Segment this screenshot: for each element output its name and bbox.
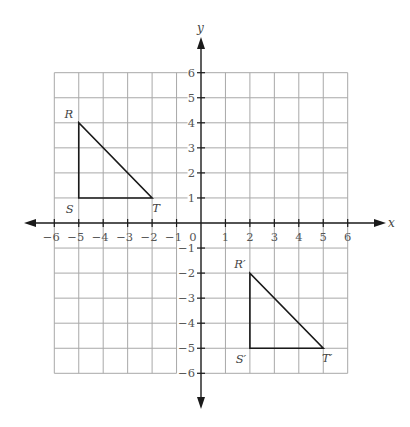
- y-tick-label: 2: [188, 166, 195, 180]
- vertex-label: T: [152, 201, 161, 215]
- x-tick-label: 2: [246, 230, 253, 244]
- y-tick-label: −6: [178, 366, 195, 380]
- y-tick-label: −1: [178, 241, 195, 255]
- x-tick-label: −4: [92, 230, 109, 244]
- x-axis-left-arrow-icon: [24, 219, 36, 227]
- x-axis-label: x: [388, 216, 395, 230]
- y-axis-up-arrow-icon: [197, 37, 205, 49]
- x-tick-label: −2: [141, 230, 158, 244]
- vertex-label: R: [63, 107, 73, 121]
- triangle: [79, 123, 152, 198]
- y-tick-label: 5: [188, 91, 195, 105]
- y-tick-label: −2: [178, 266, 195, 280]
- x-tick-label: 6: [344, 230, 351, 244]
- y-tick-label: −3: [178, 291, 195, 305]
- axes: x y 0: [24, 21, 395, 409]
- x-axis-right-arrow-icon: [374, 219, 386, 227]
- y-tick-label: 3: [188, 141, 195, 155]
- x-tick-label: 5: [320, 230, 327, 244]
- y-tick-label: −5: [178, 341, 195, 355]
- coordinate-plane: x y 0 −6−5−4−3−2−1123456654321−1−2−3−4−5…: [0, 0, 410, 427]
- y-axis-label: y: [196, 21, 204, 35]
- x-tick-label: −6: [43, 230, 60, 244]
- vertex-label: S: [66, 202, 74, 216]
- x-tick-label: −5: [67, 230, 84, 244]
- vertex-label: R′: [233, 257, 246, 271]
- y-tick-label: 6: [188, 66, 195, 80]
- x-tick-label: 1: [222, 230, 229, 244]
- y-tick-label: 1: [188, 191, 195, 205]
- y-axis-down-arrow-icon: [197, 397, 205, 409]
- vertex-label: T′: [322, 351, 333, 365]
- y-tick-label: 4: [188, 116, 195, 130]
- triangle: [250, 273, 323, 348]
- x-tick-label: 3: [271, 230, 278, 244]
- y-tick-label: −4: [178, 316, 195, 330]
- coordinate-plane-figure: x y 0 −6−5−4−3−2−1123456654321−1−2−3−4−5…: [0, 0, 410, 427]
- x-tick-label: 4: [295, 230, 302, 244]
- vertex-label: S′: [236, 352, 247, 366]
- x-tick-label: −3: [116, 230, 133, 244]
